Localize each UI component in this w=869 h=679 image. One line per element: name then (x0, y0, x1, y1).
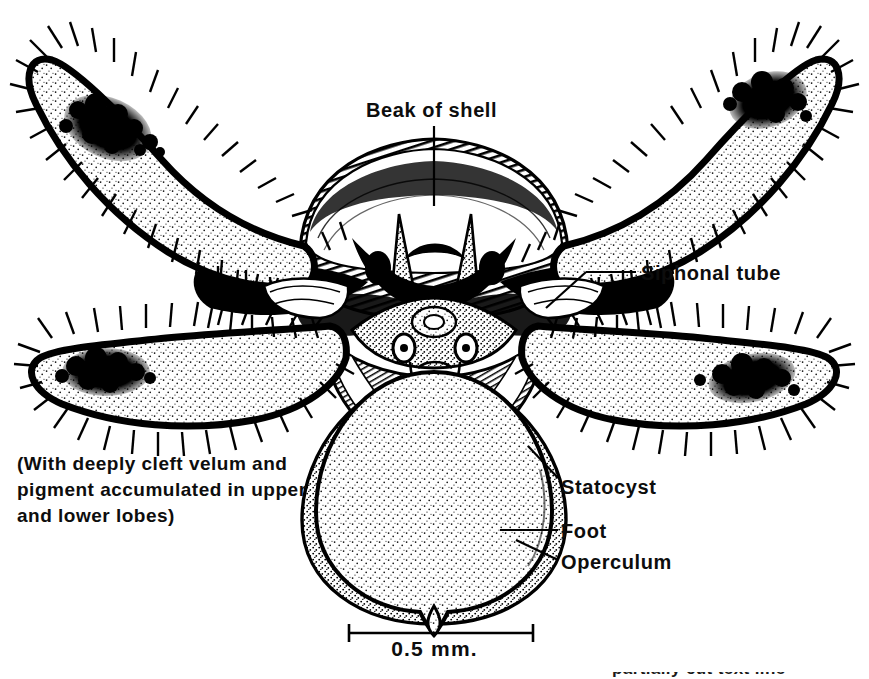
caption-line-3: and lower lobes) (17, 503, 347, 529)
label-statocyst: Statocyst (561, 476, 656, 498)
label-operculum: Operculum (561, 551, 672, 573)
label-siphonal-tube: Siphonal tube (641, 262, 781, 284)
label-foot: Foot (561, 520, 607, 542)
caption-line-2: pigment accumulated in upper (17, 477, 347, 503)
figure-canvas: Beak of shell Siphonal tube Statocyst Fo… (0, 0, 869, 679)
clipped-footer-text: partially cut text line (0, 672, 869, 679)
caption-line-1: (With deeply cleft velum and (17, 451, 347, 477)
clipped-footer-glyphs: partially cut text line (612, 672, 786, 679)
figure-caption: (With deeply cleft velum and pigment acc… (17, 451, 347, 529)
scale-bar-label: 0.5 mm. (0, 637, 869, 661)
label-beak-of-shell: Beak of shell (366, 99, 497, 121)
